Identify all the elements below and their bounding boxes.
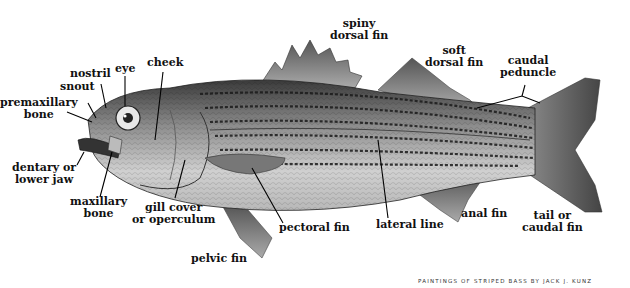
illustration-credit: PAINTINGS OF STRIPED BASS BY JACK J. KUN… [418,278,592,284]
label-pelvic-fin: pelvic fin [191,253,247,265]
label-eye: eye [115,63,135,75]
label-soft-dorsal-fin: soft dorsal fin [425,45,483,69]
pelvic-fin-shape [222,205,272,258]
label-line: pelvic fin [191,253,247,265]
label-anal-fin: anal fin [461,208,507,220]
label-line: snout [60,81,95,93]
label-line: dorsal fin [330,30,388,42]
label-line: bone [0,109,78,121]
label-maxillary-bone: maxillary bone [70,196,127,220]
tail-fin-shape [528,78,602,212]
striped-bass-illustration [0,0,630,288]
label-line: lower jaw [12,174,76,186]
label-tail: tail or caudal fin [522,210,583,234]
label-nostril: nostril [70,68,111,80]
label-line: peduncle [500,67,556,79]
label-premaxillary-bone: premaxillary bone [0,97,78,121]
label-cheek: cheek [147,57,183,69]
label-line: cheek [147,57,183,69]
label-line: dorsal fin [425,57,483,69]
label-pectoral-fin: pectoral fin [279,222,350,234]
label-snout: snout [60,81,95,93]
label-line: or operculum [132,214,215,226]
label-line: lateral line [376,219,444,231]
label-spiny-dorsal-fin: spiny dorsal fin [330,18,388,42]
label-gill-cover: gill cover or operculum [132,202,215,226]
label-dentary: dentary or lower jaw [12,162,76,186]
label-lateral-line: lateral line [376,219,444,231]
label-line: bone [70,208,127,220]
label-line: nostril [70,68,111,80]
label-caudal-peduncle: caudal peduncle [500,55,556,79]
label-line: caudal fin [522,222,583,234]
label-line: anal fin [461,208,507,220]
label-line: pectoral fin [279,222,350,234]
label-line: eye [115,63,135,75]
